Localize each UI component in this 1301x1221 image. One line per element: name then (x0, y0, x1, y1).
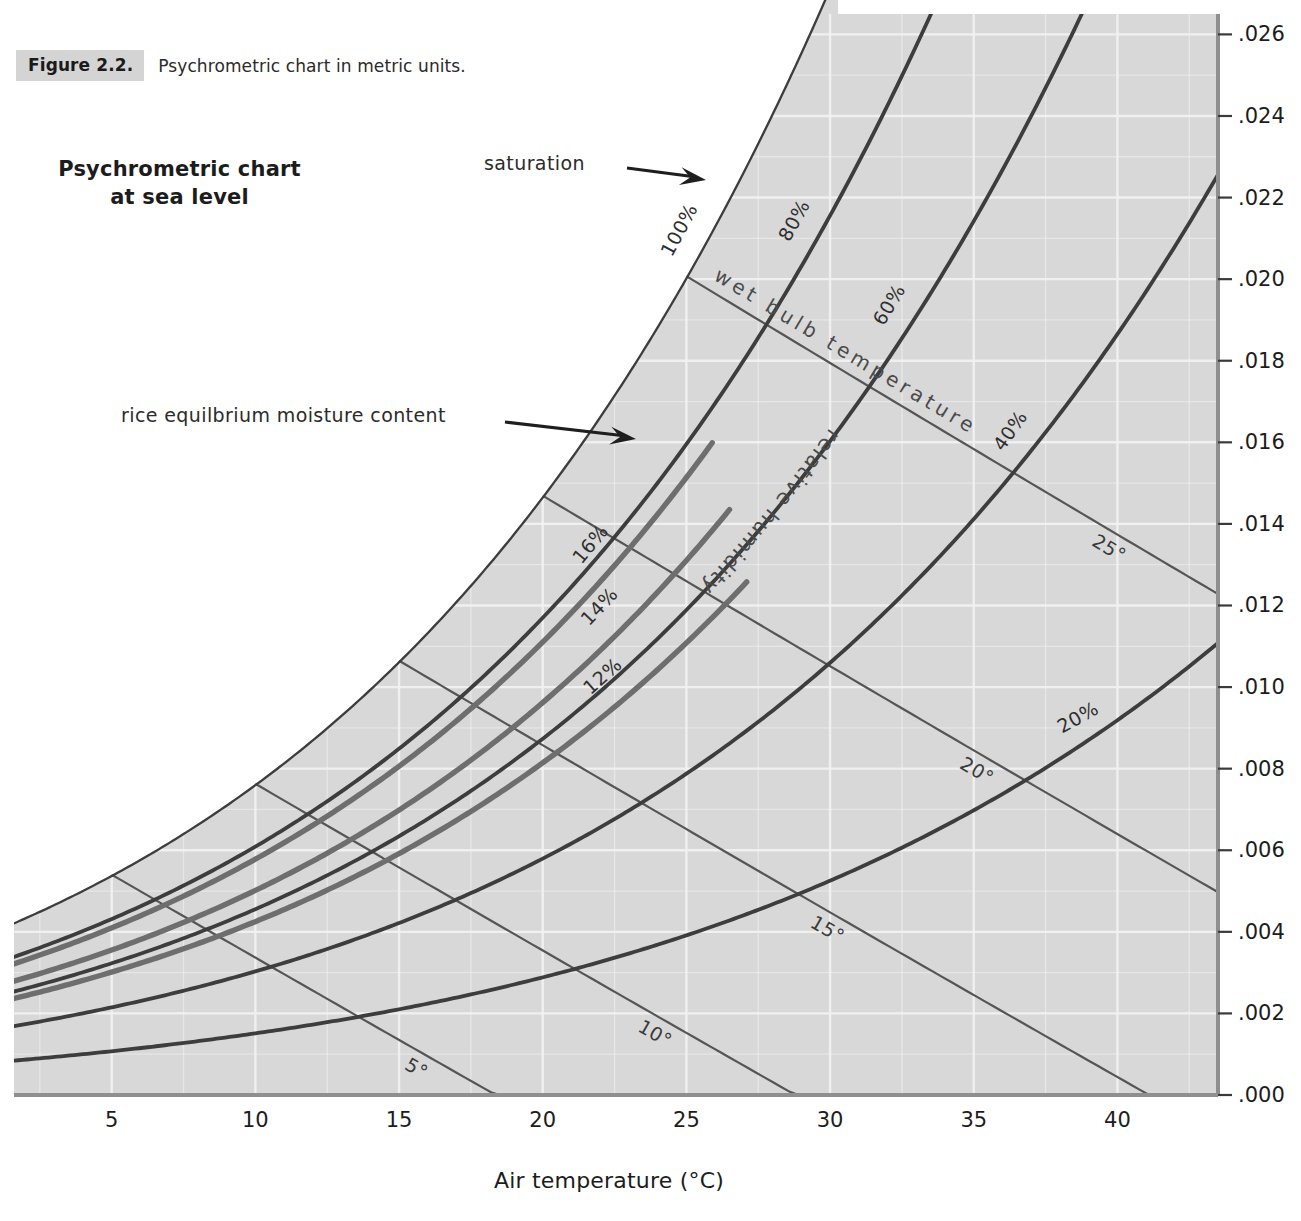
rh-label-100: 100% (656, 200, 702, 260)
plot-area: 100%100%80%80%60%60%40%40%20%20%5°5°10°1… (0, 0, 1301, 1221)
psychrometric-chart-figure: Figure 2.2. Psychrometric chart in metri… (0, 0, 1301, 1221)
